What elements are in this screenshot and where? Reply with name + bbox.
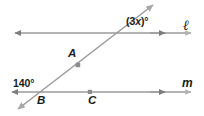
geometry-canvas [0, 0, 204, 116]
angle-label-top: (3x)° [126, 16, 148, 27]
line-label-m: m [182, 77, 193, 89]
angle-label-bottom: 140° [13, 78, 34, 89]
angle-top-suffix: )° [141, 15, 149, 27]
angle-top-prefix: (3 [126, 15, 135, 27]
point-marker-a [76, 63, 81, 68]
point-label-b: B [37, 95, 45, 107]
geometry-figure: (3x)° 140° ℓ m A B C [0, 0, 204, 116]
line-label-ell: ℓ [183, 19, 189, 33]
point-label-a: A [68, 48, 76, 60]
point-label-c: C [88, 95, 96, 107]
